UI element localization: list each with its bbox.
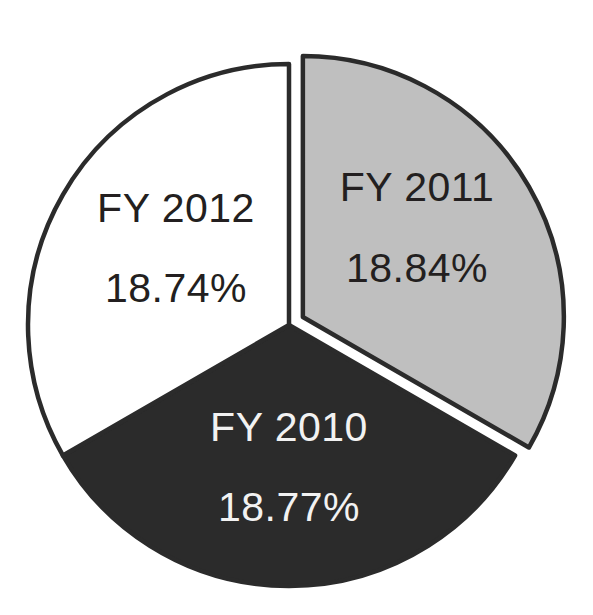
- slice-category-label-fy-2012: FY 2012: [97, 185, 255, 231]
- pie-chart-figure: FY 201118.84%FY 201018.77%FY 201218.74%: [0, 0, 593, 615]
- slice-value-label-fy-2010: 18.77%: [218, 484, 360, 530]
- slice-value-label-fy-2011: 18.84%: [346, 245, 488, 291]
- pie-chart-svg: FY 201118.84%FY 201018.77%FY 201218.74%: [0, 0, 593, 615]
- slice-category-label-fy-2011: FY 2011: [340, 164, 495, 210]
- slice-category-label-fy-2010: FY 2010: [210, 404, 368, 450]
- slice-value-label-fy-2012: 18.74%: [105, 265, 247, 311]
